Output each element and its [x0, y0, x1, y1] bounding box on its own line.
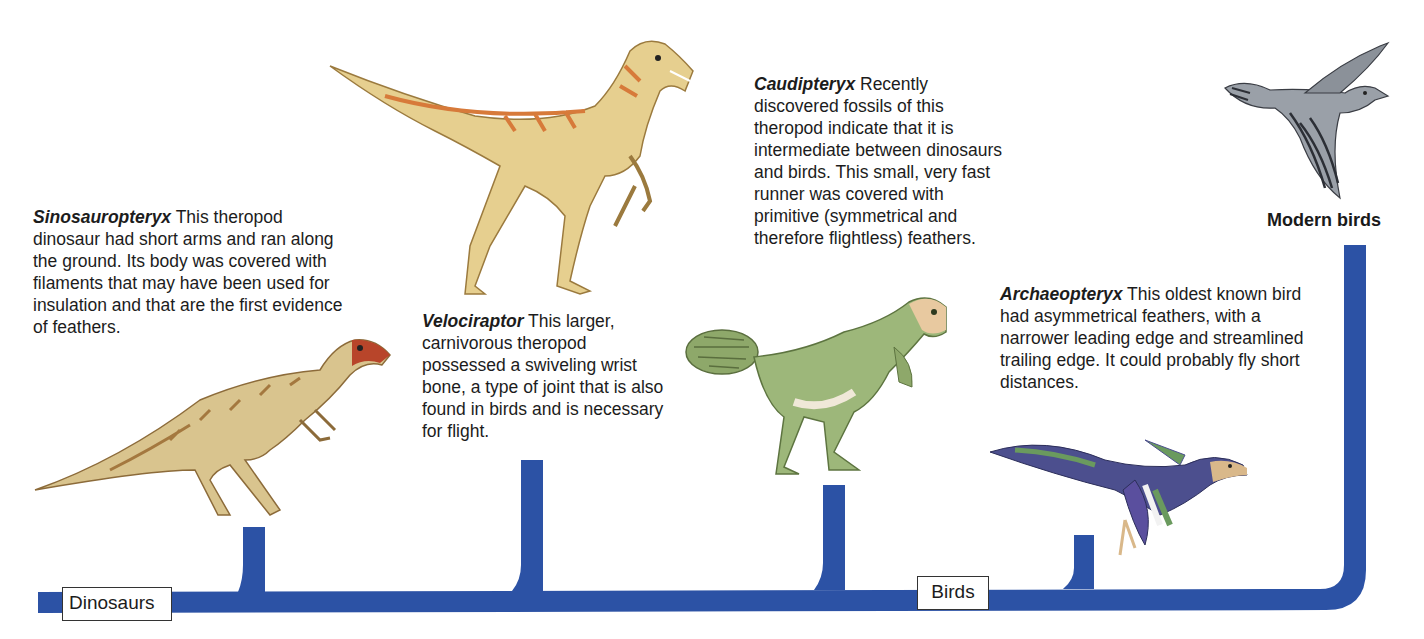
- branch-velociraptor: [512, 460, 543, 591]
- branch-caudipteryx: [814, 485, 845, 590]
- caption-archaeopteryx: Archaeopteryx This oldest known bird had…: [1000, 283, 1315, 393]
- dinosaurs-label: Dinosaurs: [62, 587, 172, 621]
- modern-bird-illustration: [1220, 38, 1395, 203]
- taxon-name: Sinosauropteryx: [33, 207, 171, 227]
- taxon-name: Archaeopteryx: [1000, 284, 1123, 304]
- taxon-description: Recently discovered fossils of this ther…: [754, 74, 1002, 248]
- modern-birds-label: Modern birds: [1267, 210, 1381, 231]
- dinosaur-bird-evolution-diagram: Sinosauropteryx This theropod dinosaur h…: [0, 0, 1424, 639]
- caption-velociraptor: Velociraptor This larger, carnivorous th…: [422, 310, 672, 442]
- caption-caudipteryx: Caudipteryx Recently discovered fossils …: [754, 73, 1009, 249]
- velociraptor-illustration: [325, 36, 705, 298]
- caudipteryx-illustration: [684, 292, 956, 480]
- birds-label: Birds: [917, 576, 989, 610]
- archaeopteryx-illustration: [985, 430, 1255, 560]
- caption-sinosauropteryx: Sinosauropteryx This theropod dinosaur h…: [33, 206, 348, 338]
- branch-sinosauropteryx: [238, 527, 265, 592]
- sinosauropteryx-illustration: [30, 330, 400, 525]
- taxon-name: Velociraptor: [422, 311, 523, 331]
- taxon-name: Caudipteryx: [754, 74, 855, 94]
